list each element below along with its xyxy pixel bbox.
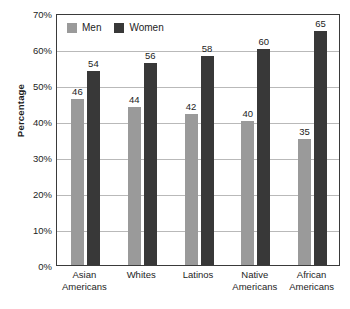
bar-women[interactable] <box>257 49 270 265</box>
chart-legend: MenWomen <box>67 22 164 33</box>
plot-area: MenWomen 46544456425840603565 <box>56 14 340 266</box>
bar-value-label: 60 <box>259 36 270 47</box>
y-axis-tick: 70% <box>14 9 52 20</box>
bar-group: 4654 <box>71 15 100 265</box>
bar-chart: Percentage 0%10%20%30%40%50%60%70% MenWo… <box>0 0 350 309</box>
x-axis-label: AfricanAmericans <box>277 269 347 292</box>
y-axis-tick: 40% <box>14 117 52 128</box>
bar-women[interactable] <box>144 63 157 265</box>
bar-men[interactable] <box>241 121 254 265</box>
bar-men[interactable] <box>128 107 141 265</box>
y-axis-tick: 60% <box>14 45 52 56</box>
bar-women[interactable] <box>87 71 100 265</box>
bar-value-label: 44 <box>129 94 140 105</box>
y-axis-tick: 0% <box>14 261 52 272</box>
x-axis-label-line: African <box>277 269 347 281</box>
y-axis-tick: 30% <box>14 153 52 164</box>
bar-women[interactable] <box>201 56 214 265</box>
bar-group: 4258 <box>185 15 214 265</box>
y-axis-tick: 50% <box>14 81 52 92</box>
legend-swatch-icon <box>114 23 124 33</box>
bar-group: 4456 <box>128 15 157 265</box>
legend-item-women[interactable]: Women <box>114 22 163 33</box>
legend-swatch-icon <box>67 23 77 33</box>
bar-group: 4060 <box>241 15 270 265</box>
bar-value-label: 65 <box>315 18 326 29</box>
legend-label: Men <box>82 22 101 33</box>
bar-women[interactable] <box>314 31 327 265</box>
bar-value-label: 54 <box>88 58 99 69</box>
bar-value-label: 42 <box>186 101 197 112</box>
bar-value-label: 58 <box>202 43 213 54</box>
bar-men[interactable] <box>185 114 198 265</box>
bar-value-label: 46 <box>72 86 83 97</box>
bar-group: 3565 <box>298 15 327 265</box>
legend-item-men[interactable]: Men <box>67 22 101 33</box>
bar-value-label: 56 <box>145 50 156 61</box>
bar-value-label: 40 <box>243 108 254 119</box>
bar-men[interactable] <box>298 139 311 265</box>
bars-layer: 46544456425840603565 <box>57 15 339 265</box>
legend-label: Women <box>129 22 163 33</box>
x-axis-tick-labels: AsianAmericansWhitesLatinosNativeAmerica… <box>56 269 340 309</box>
bar-value-label: 35 <box>299 126 310 137</box>
bar-men[interactable] <box>71 99 84 265</box>
x-axis-label-line: Americans <box>49 281 119 293</box>
y-axis-tick-labels: 0%10%20%30%40%50%60%70% <box>14 14 52 266</box>
x-axis-label-line: Americans <box>277 281 347 293</box>
y-axis-tick: 20% <box>14 189 52 200</box>
y-axis-tick: 10% <box>14 225 52 236</box>
